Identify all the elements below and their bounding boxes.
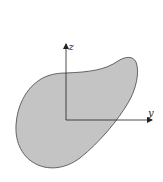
z-axis-label: z xyxy=(68,41,75,52)
y-axis-label: y xyxy=(147,107,154,118)
cross-section-shape xyxy=(16,57,138,168)
cross-section-diagram: z y xyxy=(0,0,163,182)
